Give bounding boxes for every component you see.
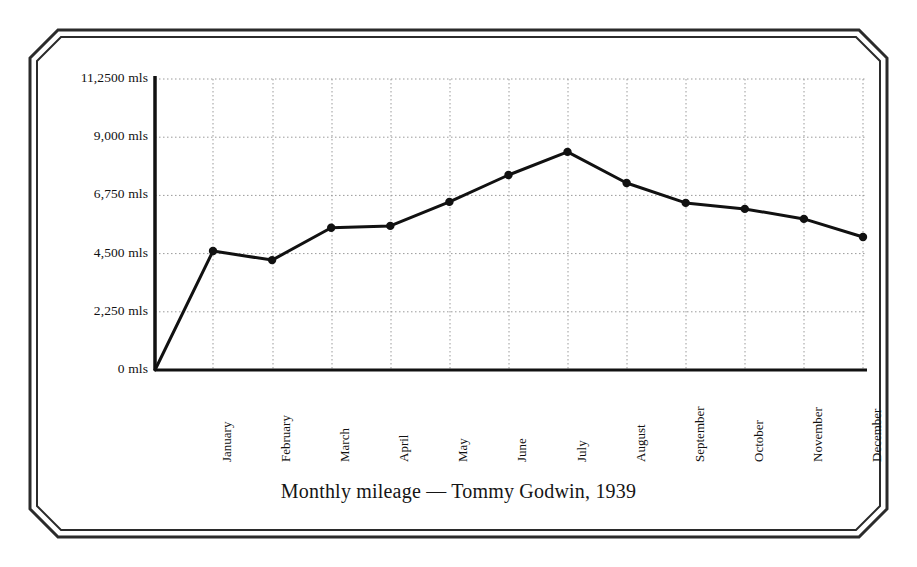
data-point-july[interactable] [563, 148, 571, 156]
y-tick-label-9000: 9,000 mls [94, 128, 148, 144]
vertical-gridlines [213, 79, 863, 370]
x-tick-label-march: March [337, 428, 353, 462]
y-tick-label-0: 0 mls [118, 361, 148, 377]
x-tick-label-december: December [869, 409, 885, 462]
horizontal-gridlines [155, 79, 867, 312]
data-point-markers [209, 148, 867, 265]
data-point-february[interactable] [268, 256, 276, 264]
x-tick-label-september: September [692, 406, 708, 462]
x-tick-label-january: January [219, 422, 235, 462]
x-tick-label-august: August [633, 424, 649, 462]
x-tick-label-april: April [396, 435, 412, 462]
x-tick-label-july: July [574, 440, 590, 462]
data-point-october[interactable] [741, 205, 749, 213]
y-tick-label-4500: 4,500 mls [94, 245, 148, 261]
data-point-september[interactable] [682, 199, 690, 207]
data-point-june[interactable] [504, 171, 512, 179]
y-tick-label-2250: 2,250 mls [94, 303, 148, 319]
chart-title: Monthly mileage — Tommy Godwin, 1939 [0, 480, 917, 503]
data-point-may[interactable] [445, 198, 453, 206]
x-tick-label-june: June [514, 438, 530, 462]
data-point-january[interactable] [209, 247, 217, 255]
x-tick-label-may: May [455, 438, 471, 462]
data-point-december[interactable] [859, 233, 867, 241]
chart-figure: 0 mls2,250 mls4,500 mls6,750 mls9,000 ml… [0, 0, 917, 567]
y-tick-label-6750: 6,750 mls [94, 186, 148, 202]
x-tick-label-november: November [810, 407, 826, 462]
y-tick-label-11250: 11,2500 mls [81, 70, 148, 86]
x-tick-label-february: February [278, 415, 294, 462]
data-point-march[interactable] [327, 224, 335, 232]
data-point-august[interactable] [622, 179, 630, 187]
x-tick-label-october: October [751, 420, 767, 462]
data-series-line [155, 152, 863, 370]
data-point-april[interactable] [386, 222, 394, 230]
data-point-november[interactable] [800, 215, 808, 223]
